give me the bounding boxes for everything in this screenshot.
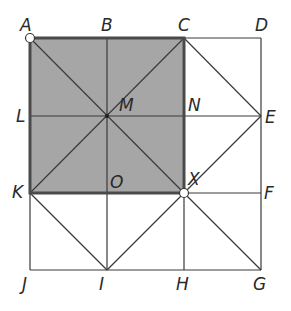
segment-KI <box>30 193 107 270</box>
label-B: B <box>101 15 113 35</box>
label-C: C <box>178 15 190 35</box>
label-H: H <box>176 274 189 294</box>
label-G: G <box>253 274 266 294</box>
segment-XG <box>184 193 261 270</box>
label-F: F <box>264 183 274 203</box>
label-E: E <box>265 107 276 127</box>
label-D: D <box>255 15 268 35</box>
label-O: O <box>110 172 123 192</box>
label-X: X <box>187 169 200 189</box>
label-A: A <box>19 15 32 35</box>
label-M: M <box>119 95 134 115</box>
label-I: I <box>99 274 104 294</box>
segment-IX <box>107 193 184 270</box>
label-J: J <box>19 274 27 294</box>
diagram-canvas: ABCDLMNEKOXFJIHG <box>0 0 291 311</box>
point-marker-X <box>180 189 189 198</box>
label-L: L <box>16 106 25 126</box>
geometry-diagram: ABCDLMNEKOXFJIHG <box>0 0 291 311</box>
center-dot-M <box>105 114 109 118</box>
label-K: K <box>12 182 25 202</box>
label-N: N <box>188 95 201 115</box>
